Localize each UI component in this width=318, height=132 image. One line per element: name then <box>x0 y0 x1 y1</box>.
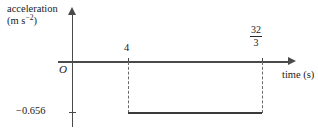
dropline-at-t4 <box>128 62 129 113</box>
x-tick-label-4: 4 <box>124 42 129 54</box>
y-axis-label-units: (m s−2) <box>7 15 58 27</box>
y-tick-minus-0-656 <box>69 112 76 113</box>
x-axis <box>58 61 291 63</box>
x-axis-label: time (s) <box>282 69 314 81</box>
acceleration-segment <box>128 112 262 114</box>
y-tick-label-minus-0-656: −0.656 <box>16 105 46 117</box>
x-axis-arrow-icon <box>288 57 296 65</box>
origin-label: O <box>59 63 67 75</box>
fraction-numerator: 32 <box>250 25 262 36</box>
fraction-32-over-3: 32 3 <box>250 25 262 48</box>
y-axis <box>72 11 74 127</box>
acceleration-time-graph: acceleration (m s−2) O 4 32 3 −0.656 tim… <box>0 0 318 132</box>
y-axis-label: acceleration (m s−2) <box>7 3 58 27</box>
y-axis-arrow-icon <box>68 7 76 15</box>
x-tick-label-32-over-3: 32 3 <box>250 25 262 48</box>
dropline-at-t32-over-3 <box>262 62 263 113</box>
fraction-denominator: 3 <box>250 38 262 49</box>
